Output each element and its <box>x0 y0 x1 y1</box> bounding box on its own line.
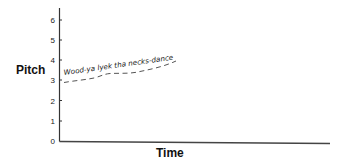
y-tick-label-6: 6 <box>51 16 56 25</box>
x-axis <box>60 142 331 144</box>
y-axis-title: Pitch <box>16 63 45 77</box>
y-tick-label-1: 1 <box>51 117 56 126</box>
x-axis-title: Time <box>156 146 184 160</box>
y-tick-label-3: 3 <box>51 76 56 85</box>
y-tick-label-2: 2 <box>51 97 56 106</box>
y-tick-label-4: 4 <box>51 56 56 65</box>
y-tick-label-5: 5 <box>51 36 56 45</box>
pitch-time-chart: 6 5 4 3 2 1 0 Pitch Time Wood-ya lyek th… <box>0 0 345 167</box>
y-tick-label-0: 0 <box>51 137 56 146</box>
